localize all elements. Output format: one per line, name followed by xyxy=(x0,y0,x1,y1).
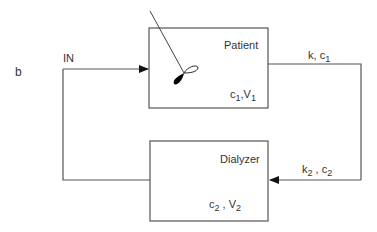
input-label: IN xyxy=(63,53,74,64)
return-line xyxy=(63,69,150,180)
stirrer-icon xyxy=(150,11,198,84)
dialyzer-title: Dialyzer xyxy=(220,154,260,165)
flow-out-label: k, c1 xyxy=(308,50,330,64)
patient-title: Patient xyxy=(224,40,258,51)
patient-variables: c1,V1 xyxy=(230,89,256,103)
dialyzer-variables: c2 , V2 xyxy=(209,199,241,213)
panel-label: b xyxy=(15,66,22,78)
flow-back-label: k2 , c2 xyxy=(302,164,332,178)
diagram-canvas xyxy=(0,0,377,232)
